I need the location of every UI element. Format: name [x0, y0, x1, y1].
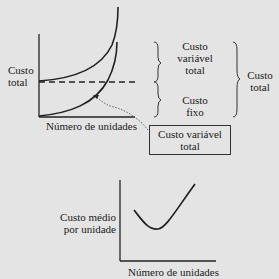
variable-cost-label-line2: variável	[173, 52, 217, 64]
total-cost-label-line2: total	[243, 81, 277, 93]
bottom-y-label-line1: Custo médio	[60, 211, 116, 223]
bottom-x-label: Número de unidades	[128, 266, 219, 278]
average-cost-curve	[134, 184, 195, 229]
total-cost-curve	[39, 7, 118, 81]
variable-cost-label-line3: total	[173, 64, 217, 76]
variable-cost-brace	[154, 42, 161, 82]
bottom-y-label-line2: por unidade	[60, 223, 116, 235]
fixed-cost-label-line2: fixo	[173, 106, 217, 118]
variable-cost-callout-box: Custo variável total	[149, 125, 231, 155]
variable-cost-label: Custo variável total	[173, 40, 217, 76]
total-cost-label: Custo total	[243, 69, 277, 93]
callout-line2: total	[180, 140, 200, 152]
fixed-cost-label-line1: Custo	[173, 94, 217, 106]
variable-cost-curve	[39, 42, 117, 116]
total-cost-label-line1: Custo	[243, 69, 277, 81]
bottom-y-label: Custo médio por unidade	[60, 211, 116, 235]
fixed-cost-brace	[154, 82, 161, 117]
top-y-label: Custo total	[8, 64, 34, 88]
top-x-label: Número de unidades	[46, 120, 137, 132]
fixed-cost-label: Custo fixo	[173, 94, 217, 118]
top-y-label-line2: total	[8, 76, 34, 88]
total-cost-brace	[233, 42, 240, 117]
top-y-label-line1: Custo	[8, 64, 34, 76]
callout-line1: Custo variável	[158, 128, 222, 140]
variable-cost-label-line1: Custo	[173, 40, 217, 52]
diagram-graphics	[0, 0, 279, 279]
